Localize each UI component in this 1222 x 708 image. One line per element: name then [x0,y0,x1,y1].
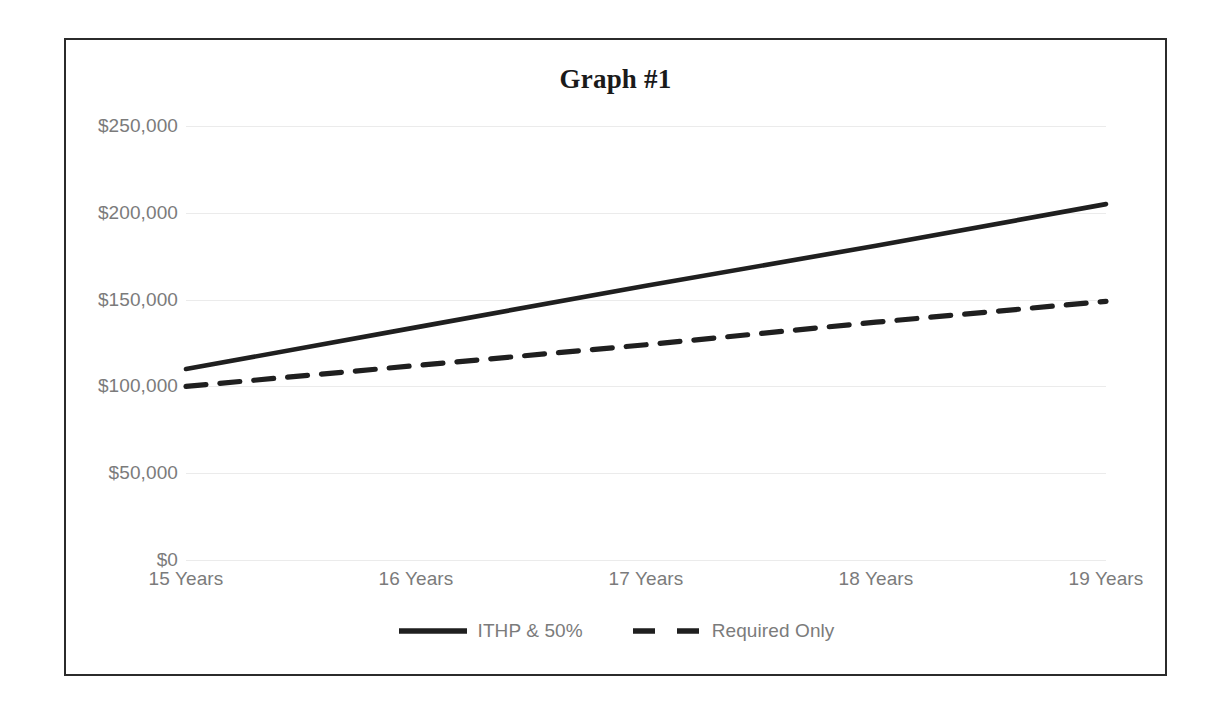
legend-item-required-only[interactable]: Required Only [631,620,835,642]
plot-area [186,126,1106,560]
y-tick-label: $150,000 [98,289,178,311]
x-tick-label: 16 Years [379,568,454,590]
gridline [186,560,1106,561]
legend-solid-line-icon [397,626,469,636]
x-tick-label: 18 Years [839,568,914,590]
x-tick-label: 15 Years [149,568,224,590]
y-tick-label: $50,000 [109,462,178,484]
x-axis: 15 Years 16 Years 17 Years 18 Years 19 Y… [186,568,1106,598]
y-tick-label: $250,000 [98,115,178,137]
chart-frame: Graph #1 $250,000 $200,000 $150,000 $100… [64,38,1167,676]
chart-legend: ITHP & 50% Required Only [66,620,1165,642]
y-axis: $250,000 $200,000 $150,000 $100,000 $50,… [66,126,178,560]
x-tick-label: 17 Years [609,568,684,590]
y-tick-label: $100,000 [98,375,178,397]
legend-dashed-line-icon [631,626,703,636]
legend-item-ithp-50[interactable]: ITHP & 50% [397,620,583,642]
chart-title: Graph #1 [66,64,1165,95]
legend-label: Required Only [712,620,835,642]
y-tick-label: $200,000 [98,202,178,224]
x-tick-label: 19 Years [1069,568,1144,590]
legend-label: ITHP & 50% [478,620,583,642]
series-container [186,126,1106,560]
